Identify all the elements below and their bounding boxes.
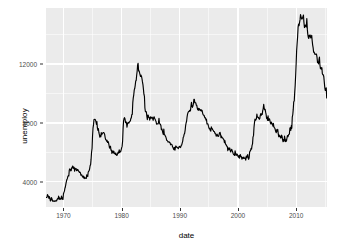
major-gridlines	[46, 8, 327, 207]
x-tick-mark	[63, 208, 64, 211]
y-tick-mark	[40, 122, 43, 123]
x-axis-title: date	[46, 231, 327, 240]
x-tick-label: 2000	[231, 212, 245, 219]
x-axis: 19701980199020002010	[0, 208, 337, 228]
x-tick-label: 2010	[289, 212, 303, 219]
x-tick-label: 1970	[56, 212, 70, 219]
plot-area	[46, 8, 327, 207]
plot-panel	[46, 8, 327, 207]
y-tick-label: 12000	[0, 61, 37, 68]
x-tick-mark	[296, 208, 297, 211]
x-axis-title-text: date	[179, 231, 195, 240]
minor-gridlines	[46, 8, 327, 207]
x-tick-mark	[122, 208, 123, 211]
y-tick-mark	[40, 181, 43, 182]
x-tick-mark	[180, 208, 181, 211]
unemployment-line-chart: unemploy 4000800012000 19701980199020002…	[0, 0, 337, 252]
y-tick-label: 8000	[0, 119, 37, 126]
x-tick-label: 1980	[114, 212, 128, 219]
y-tick-mark	[40, 64, 43, 65]
y-tick-label: 4000	[0, 178, 37, 185]
unemploy-line	[46, 15, 327, 202]
x-tick-label: 1990	[173, 212, 187, 219]
x-tick-mark	[238, 208, 239, 211]
